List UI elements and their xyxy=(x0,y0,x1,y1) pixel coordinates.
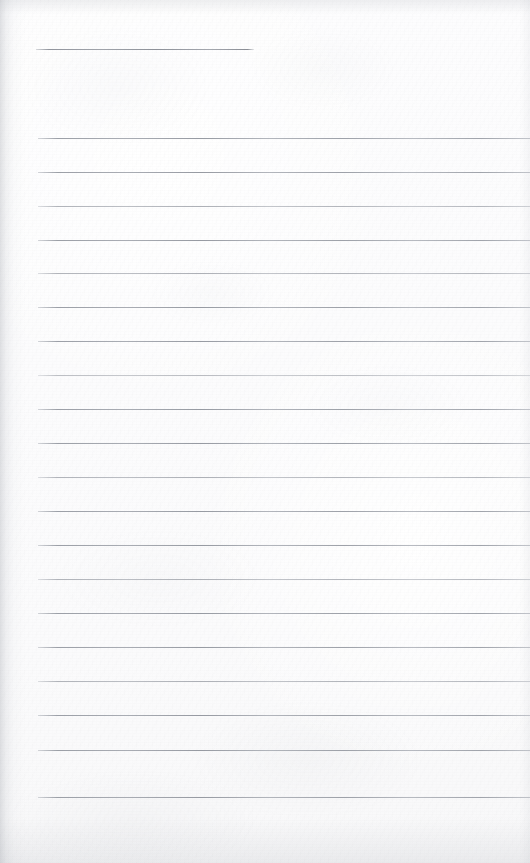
rule-line xyxy=(38,273,530,274)
rule-line xyxy=(38,511,530,512)
rule-line xyxy=(38,579,530,580)
scanned-page xyxy=(0,0,530,863)
rule-line xyxy=(38,206,530,207)
rule-line xyxy=(38,681,530,682)
rule-line xyxy=(38,307,530,308)
rule-line xyxy=(38,477,530,478)
rule-line xyxy=(38,409,530,410)
rule-line xyxy=(38,613,530,614)
header-rule xyxy=(36,49,254,50)
rule-line xyxy=(38,797,530,798)
rule-line xyxy=(38,545,530,546)
rule-line xyxy=(38,715,530,716)
ruled-lines-layer xyxy=(0,0,530,863)
rule-line xyxy=(38,341,530,342)
rule-line xyxy=(38,240,530,241)
rule-line xyxy=(38,172,530,173)
rule-line xyxy=(38,647,530,648)
rule-line xyxy=(38,375,530,376)
rule-line xyxy=(38,443,530,444)
rule-line xyxy=(38,750,530,751)
rule-line xyxy=(38,138,530,139)
